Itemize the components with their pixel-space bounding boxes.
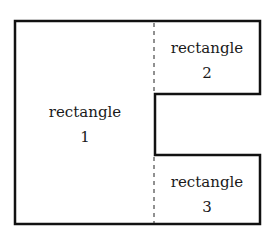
rectangle-1-number: 1 [30, 125, 140, 150]
rectangle-3-number: 3 [157, 195, 257, 220]
diagram-canvas: rectangle 1 rectangle 2 rectangle 3 [0, 0, 268, 251]
rectangle-2-text: rectangle [157, 36, 257, 61]
rectangle-2-number: 2 [157, 61, 257, 86]
rectangle-3-text: rectangle [157, 170, 257, 195]
rectangle-1-label: rectangle 1 [30, 100, 140, 150]
rectangle-1-text: rectangle [30, 100, 140, 125]
rectangle-2-label: rectangle 2 [157, 36, 257, 86]
rectangle-3-label: rectangle 3 [157, 170, 257, 220]
